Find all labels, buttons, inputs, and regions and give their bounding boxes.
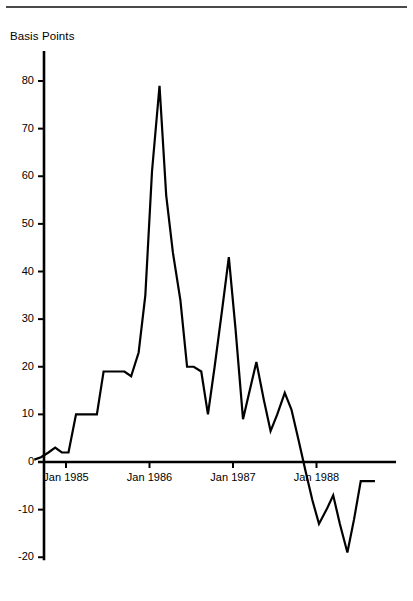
y-axis-tick-label: 0 — [0, 455, 34, 467]
y-axis-tick-label: 10 — [0, 407, 34, 419]
y-axis-tick-label: 50 — [0, 217, 34, 229]
y-axis-tick-label: 40 — [0, 265, 34, 277]
line-chart-plot — [0, 0, 413, 601]
x-axis-tick-label: Jan 1988 — [272, 471, 362, 483]
y-axis-tick-label: 20 — [0, 360, 34, 372]
y-axis-tick-label: 60 — [0, 169, 34, 181]
y-axis-tick-label: 70 — [0, 122, 34, 134]
x-axis-tick-label: Jan 1986 — [105, 471, 195, 483]
chart-tick-marks — [38, 81, 317, 557]
x-axis-tick-label: Jan 1985 — [21, 471, 111, 483]
y-axis-tick-label: 30 — [0, 312, 34, 324]
y-axis-tick-label: -20 — [0, 550, 34, 562]
y-axis-tick-label: 80 — [0, 74, 34, 86]
y-axis-tick-label: -10 — [0, 503, 34, 515]
x-axis-tick-label: Jan 1987 — [188, 471, 278, 483]
chart-axes — [38, 51, 396, 560]
